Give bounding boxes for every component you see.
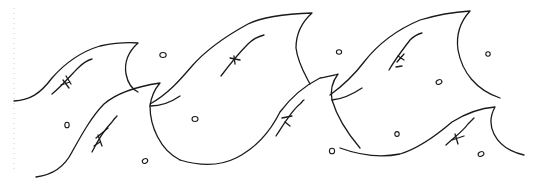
wave-6 (340, 107, 524, 156)
bubble (160, 53, 166, 58)
wave-1 (14, 43, 138, 101)
bubble (435, 79, 442, 86)
wave-5 (330, 11, 500, 98)
bubble (477, 151, 484, 158)
wave-3 (150, 13, 312, 104)
bubble (192, 117, 198, 122)
bubble (65, 122, 69, 128)
bubble (395, 132, 399, 137)
wave-illustration: wave pattern line drawing (0, 0, 545, 179)
bubble (336, 50, 341, 54)
bubble (329, 148, 334, 154)
bubble (486, 52, 490, 56)
bubble (141, 158, 148, 165)
wave-drawing (0, 0, 545, 179)
wave-2 (36, 83, 180, 177)
bubbles (65, 50, 490, 165)
